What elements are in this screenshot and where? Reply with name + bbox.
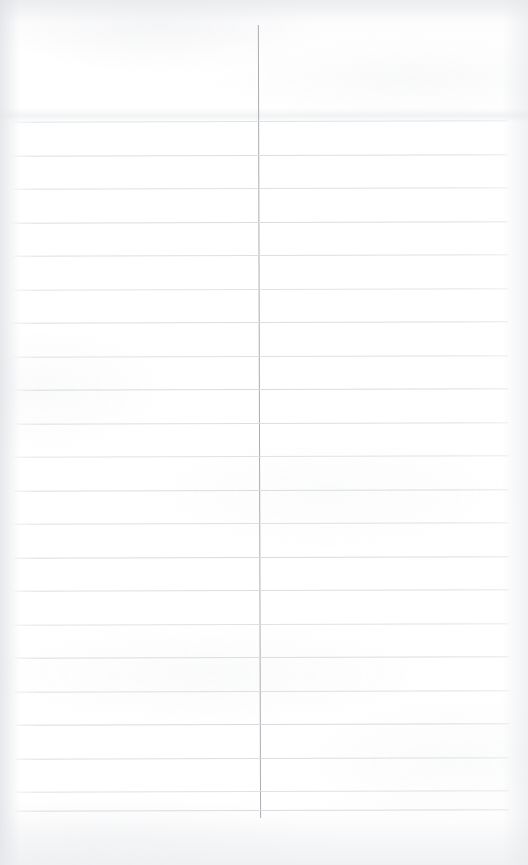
notebook-page <box>0 0 528 865</box>
page-handwriting-area <box>0 0 528 865</box>
